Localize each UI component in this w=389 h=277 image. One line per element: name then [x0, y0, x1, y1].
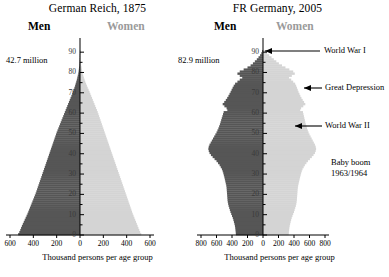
pyramid-chart-2005: FR Germany, 2005 Men Women 82.9 million …	[194, 0, 389, 277]
arrowhead-world-war-i	[265, 48, 272, 54]
y-tick-label-40: 40	[241, 150, 259, 158]
y-tick-label-0: 0	[241, 231, 259, 239]
bars-women	[80, 50, 141, 235]
y-tick-label-20: 20	[58, 190, 76, 198]
x-tick-label-8: 800	[311, 240, 339, 248]
annotation-arrows	[194, 0, 389, 277]
annotation-baby-boom-years: 1963/1964	[331, 169, 367, 179]
y-tick-label-80: 80	[58, 68, 76, 76]
arrowhead-world-war-ii	[295, 123, 302, 129]
pyramid-svg-1875	[0, 0, 195, 277]
x-axis-title-1875: Thousand persons per age group	[0, 252, 195, 262]
axis-lines	[6, 38, 154, 235]
annotation-world-war-i: World War I	[324, 46, 366, 56]
y-tick-label-30: 30	[58, 170, 76, 178]
y-tick-label-20: 20	[241, 190, 259, 198]
annotation-great-depression: Great Depression	[325, 83, 384, 93]
annotation-baby-boom: Baby boom	[331, 158, 370, 168]
y-tick-label-80: 80	[241, 68, 259, 76]
bars-men	[18, 50, 80, 235]
arrowhead-great-depression	[304, 85, 311, 91]
y-tick-label-90: 90	[241, 48, 259, 56]
y-tick-label-10: 10	[241, 211, 259, 219]
x-tick-label-6: 600	[136, 240, 164, 248]
y-tick-label-0: 0	[58, 231, 76, 239]
y-tick-label-50: 50	[241, 129, 259, 137]
y-tick-label-40: 40	[58, 150, 76, 158]
y-tick-label-50: 50	[58, 129, 76, 137]
y-tick-label-90: 90	[58, 48, 76, 56]
pyramid-chart-1875: German Reich, 1875 Men Women 42.7 millio…	[0, 0, 195, 277]
y-tick-label-70: 70	[241, 89, 259, 97]
y-tick-label-30: 30	[241, 170, 259, 178]
y-tick-label-60: 60	[58, 109, 76, 117]
y-tick-label-10: 10	[58, 211, 76, 219]
pyramid-plot-1875	[0, 0, 195, 277]
y-tick-label-70: 70	[58, 89, 76, 97]
annotation-world-war-ii: World War II	[325, 121, 370, 131]
y-tick-label-60: 60	[241, 109, 259, 117]
